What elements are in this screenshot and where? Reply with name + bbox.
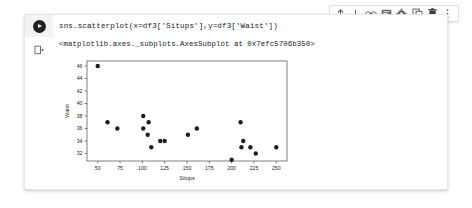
svg-text:125: 125 [160, 165, 169, 171]
svg-text:44: 44 [77, 75, 83, 81]
svg-text:175: 175 [205, 165, 214, 171]
output-prompt-gutter [25, 39, 53, 59]
svg-text:40: 40 [77, 100, 83, 106]
scatterplot-svg: 5075100125150175200225250Situps323436384… [55, 55, 295, 187]
svg-text:36: 36 [77, 125, 83, 131]
code-cell-row: sns.scatterplot(x=df3['Situps'],y=df3['W… [25, 15, 447, 37]
svg-text:150: 150 [183, 165, 192, 171]
svg-text:Situps: Situps [179, 175, 195, 181]
output-repr-text: <matplotlib.axes._subplots.AxesSubplot a… [59, 39, 315, 48]
svg-text:Waist: Waist [64, 104, 70, 118]
svg-text:75: 75 [117, 165, 123, 171]
run-cell-button[interactable] [33, 20, 46, 33]
output-cell-icon [34, 41, 44, 59]
svg-text:200: 200 [227, 165, 236, 171]
svg-text:32: 32 [77, 150, 83, 156]
svg-text:42: 42 [77, 88, 83, 94]
svg-text:38: 38 [77, 113, 83, 119]
play-icon [38, 24, 42, 28]
notebook-cell-card: sns.scatterplot(x=df3['Situps'],y=df3['W… [24, 14, 448, 190]
svg-text:46: 46 [77, 63, 83, 69]
scatterplot-figure: 5075100125150175200225250Situps323436384… [55, 55, 295, 187]
svg-text:225: 225 [250, 165, 259, 171]
run-cell-gutter [25, 15, 53, 37]
code-input-text[interactable]: sns.scatterplot(x=df3['Situps'],y=df3['W… [59, 22, 278, 30]
svg-text:250: 250 [272, 165, 281, 171]
svg-text:34: 34 [77, 138, 83, 144]
svg-text:100: 100 [138, 165, 147, 171]
svg-text:50: 50 [95, 165, 101, 171]
